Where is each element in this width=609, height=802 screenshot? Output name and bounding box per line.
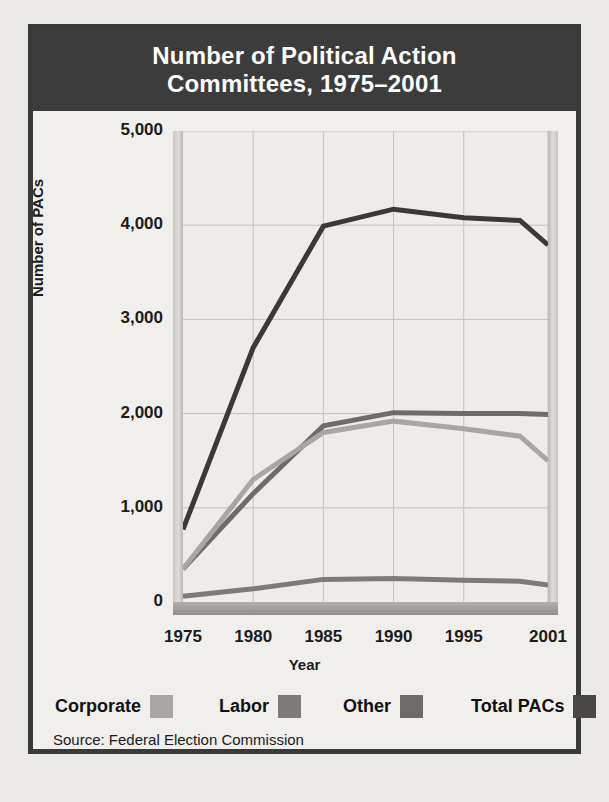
- legend-label: Corporate: [55, 696, 141, 717]
- legend-swatch: [400, 695, 423, 718]
- plot-wall-left: [173, 131, 183, 615]
- legend-item-corporate: Corporate: [55, 695, 173, 718]
- plot-canvas: [183, 131, 548, 602]
- y-tick-label: 3,000: [77, 308, 163, 328]
- legend-item-other: Other: [343, 695, 423, 718]
- plot-frame: [173, 131, 558, 615]
- x-tick-label: 2001: [529, 627, 567, 647]
- chart-plot-area: Number of PACs 01,0002,0003,0004,0005,00…: [33, 111, 576, 656]
- series-line-corporate: [183, 421, 548, 569]
- x-tick-label: 1990: [375, 627, 413, 647]
- x-tick-label: 1980: [234, 627, 272, 647]
- series-line-total-pacs: [183, 209, 548, 529]
- plot-svg: [183, 131, 548, 602]
- x-tick-label: 1975: [164, 627, 202, 647]
- chart-body-panel: Number of PACs 01,0002,0003,0004,0005,00…: [33, 111, 576, 749]
- y-axis-label: Number of PACs: [29, 179, 46, 297]
- legend-item-labor: Labor: [219, 695, 301, 718]
- y-tick-label: 2,000: [77, 403, 163, 423]
- legend-swatch: [573, 695, 596, 718]
- plot-wall-right: [548, 131, 558, 615]
- source-note: Source: Federal Election Commission: [53, 731, 304, 748]
- legend-label: Total PACs: [471, 696, 564, 717]
- legend-label: Labor: [219, 696, 269, 717]
- legend-label: Other: [343, 696, 391, 717]
- x-axis-ticks: 197519801985199019952001: [183, 627, 548, 653]
- chart-title-banner: Number of Political Action Committees, 1…: [33, 29, 576, 111]
- chart-figure: Number of Political Action Committees, 1…: [28, 24, 581, 754]
- y-axis-ticks: 01,0002,0003,0004,0005,000: [59, 131, 163, 615]
- legend-swatch: [278, 695, 301, 718]
- y-tick-label: 4,000: [77, 214, 163, 234]
- chart-title-line-1: Number of Political Action: [152, 42, 456, 70]
- series-line-other: [183, 413, 548, 569]
- legend-item-total-pacs: Total PACs: [471, 695, 596, 718]
- chart-legend: CorporateLaborOtherTotal PACs: [51, 691, 561, 721]
- plot-wall-bottom: [173, 602, 558, 615]
- legend-swatch: [150, 695, 173, 718]
- y-tick-label: 5,000: [77, 120, 163, 140]
- y-tick-label: 0: [77, 591, 163, 611]
- y-tick-label: 1,000: [77, 497, 163, 517]
- chart-title-line-2: Committees, 1975–2001: [167, 70, 442, 98]
- x-tick-label: 1985: [304, 627, 342, 647]
- series-line-labor: [183, 578, 548, 596]
- x-axis-label: Year: [33, 656, 576, 673]
- x-tick-label: 1995: [445, 627, 483, 647]
